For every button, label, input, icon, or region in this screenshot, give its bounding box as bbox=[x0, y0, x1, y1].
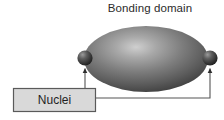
nucleus-right-sphere bbox=[202, 50, 217, 65]
bonding-domain-diagram bbox=[0, 0, 224, 120]
nucleus-left-sphere bbox=[77, 50, 92, 65]
bonding-domain-ellipse bbox=[84, 26, 208, 92]
figure-canvas: Bonding domain bbox=[0, 0, 224, 120]
nuclei-label-box bbox=[14, 89, 96, 112]
